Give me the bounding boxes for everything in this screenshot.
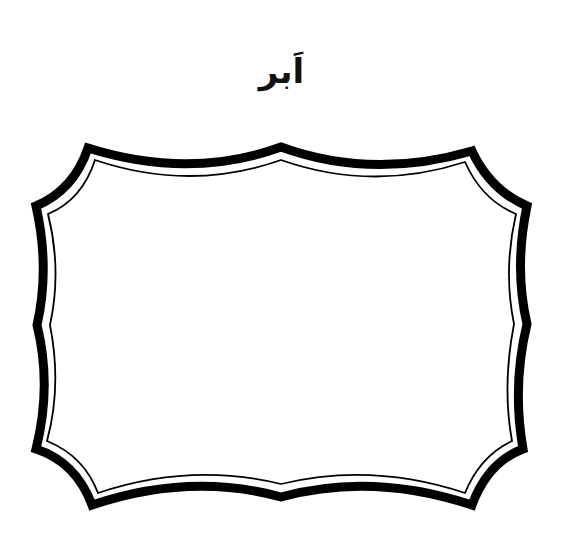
frame-outer-border <box>36 147 527 505</box>
frame-inner-border <box>47 160 516 493</box>
decorative-frame-icon <box>0 0 563 539</box>
